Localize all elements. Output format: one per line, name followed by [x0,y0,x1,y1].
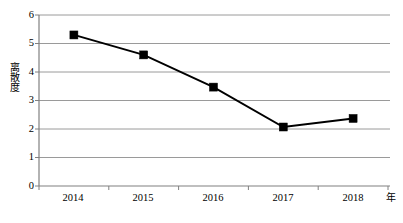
series-line [74,35,353,127]
line-chart: 离散度 0 1 2 3 4 5 6 2014 2015 2016 2017 20… [0,0,403,223]
x-axis-ticks [39,186,388,190]
plot-area [0,0,403,223]
data-point-marker [349,114,357,122]
data-point-marker [210,83,218,91]
data-point-marker [70,31,78,39]
data-point-marker [140,51,148,59]
data-point-marker [279,123,287,131]
